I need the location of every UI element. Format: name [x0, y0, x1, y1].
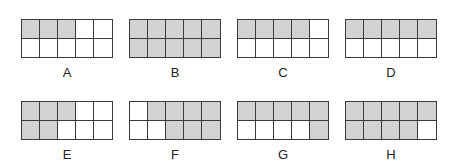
empty-cell [148, 121, 166, 140]
shaded-cell [382, 20, 400, 39]
shaded-cell [202, 121, 220, 140]
empty-cell [76, 102, 94, 121]
shaded-cell [346, 121, 364, 140]
shaded-cell [418, 20, 436, 39]
shaded-cell [184, 102, 202, 121]
shaded-cell [274, 102, 292, 121]
grid-panel-a: A [21, 19, 113, 58]
grid-label: H [345, 147, 437, 160]
fraction-grid [129, 19, 221, 58]
fraction-grid [345, 101, 437, 140]
grid-label: B [129, 65, 221, 80]
shaded-cell [400, 20, 418, 39]
shaded-cell [274, 20, 292, 39]
shaded-cell [22, 121, 40, 140]
empty-cell [256, 121, 274, 140]
empty-cell [364, 39, 382, 58]
shaded-cell [130, 39, 148, 58]
fraction-grid [21, 19, 113, 58]
empty-cell [346, 39, 364, 58]
shaded-cell [166, 121, 184, 140]
shaded-cell [58, 20, 76, 39]
shaded-cell [418, 102, 436, 121]
fraction-grid [237, 19, 329, 58]
shaded-cell [382, 121, 400, 140]
grid-panel-g: G [237, 101, 329, 140]
shaded-cell [184, 121, 202, 140]
shaded-cell [310, 121, 328, 140]
shaded-cell [400, 102, 418, 121]
shaded-cell [238, 20, 256, 39]
shaded-cell [238, 102, 256, 121]
shaded-cell [256, 102, 274, 121]
empty-cell [292, 121, 310, 140]
empty-cell [238, 39, 256, 58]
grid-label: C [237, 65, 329, 80]
empty-cell [40, 39, 58, 58]
empty-cell [58, 121, 76, 140]
grid-panel-b: B [129, 19, 221, 58]
shaded-cell [130, 20, 148, 39]
empty-cell [130, 121, 148, 140]
empty-cell [94, 121, 112, 140]
empty-cell [310, 20, 328, 39]
shaded-cell [40, 20, 58, 39]
grid-panel-f: F [129, 101, 221, 140]
fraction-grid [345, 19, 437, 58]
empty-cell [292, 39, 310, 58]
shaded-cell [202, 39, 220, 58]
shaded-cell [364, 102, 382, 121]
shaded-cell [346, 102, 364, 121]
shaded-cell [256, 20, 274, 39]
empty-cell [256, 39, 274, 58]
shaded-cell [364, 121, 382, 140]
empty-cell [418, 121, 436, 140]
shaded-cell [364, 20, 382, 39]
shaded-cell [202, 20, 220, 39]
shaded-cell [184, 39, 202, 58]
empty-cell [400, 39, 418, 58]
shaded-cell [400, 121, 418, 140]
shaded-cell [148, 102, 166, 121]
shaded-cell [148, 39, 166, 58]
shaded-cell [382, 102, 400, 121]
grid-panel-h: H [345, 101, 437, 140]
empty-cell [94, 20, 112, 39]
empty-cell [418, 39, 436, 58]
empty-cell [130, 102, 148, 121]
fraction-grid [129, 101, 221, 140]
empty-cell [76, 39, 94, 58]
shaded-cell [292, 102, 310, 121]
grid-label: D [345, 65, 437, 80]
grid-panel-c: C [237, 19, 329, 58]
shaded-cell [148, 20, 166, 39]
empty-cell [22, 39, 40, 58]
grid-label: A [21, 65, 113, 80]
shaded-cell [184, 20, 202, 39]
shaded-cell [166, 39, 184, 58]
shaded-cell [166, 20, 184, 39]
grid-label: G [237, 147, 329, 160]
shaded-cell [22, 20, 40, 39]
grid-label: F [129, 147, 221, 160]
empty-cell [94, 102, 112, 121]
shaded-cell [202, 102, 220, 121]
empty-cell [76, 20, 94, 39]
fraction-grid [237, 101, 329, 140]
empty-cell [274, 121, 292, 140]
grid-panel-e: E [21, 101, 113, 140]
empty-cell [76, 121, 94, 140]
shaded-cell [310, 102, 328, 121]
shaded-cell [346, 20, 364, 39]
empty-cell [58, 39, 76, 58]
fraction-grid [21, 101, 113, 140]
empty-cell [274, 39, 292, 58]
empty-cell [310, 39, 328, 58]
shaded-cell [58, 102, 76, 121]
shaded-cell [166, 102, 184, 121]
grid-label: E [21, 147, 113, 160]
grid-panel-d: D [345, 19, 437, 58]
empty-cell [94, 39, 112, 58]
empty-cell [382, 39, 400, 58]
shaded-cell [40, 121, 58, 140]
